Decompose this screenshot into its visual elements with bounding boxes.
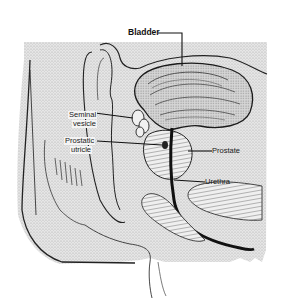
label-seminal-vesicle-line2: vesicle xyxy=(72,120,97,128)
bladder xyxy=(135,63,253,130)
prostatic-utricle xyxy=(162,141,168,149)
label-prostate: Prostate xyxy=(212,147,240,155)
label-prostatic-utricle-line1: Prostatic xyxy=(64,137,95,145)
label-seminal-vesicle-line1: Seminal xyxy=(68,111,97,119)
label-bladder: Bladder xyxy=(128,28,160,36)
label-urethra: Urethra xyxy=(205,178,230,186)
anatomy-diagram: Bladder Seminal vesicle Prostatic utricl… xyxy=(0,0,281,300)
label-prostatic-utricle-line2: utricle xyxy=(70,146,92,154)
